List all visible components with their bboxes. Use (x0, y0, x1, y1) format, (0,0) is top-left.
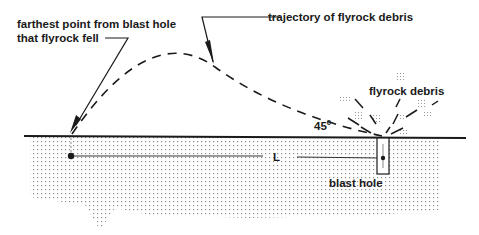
trajectory-label: trajectory of flyrock debris (268, 10, 413, 24)
blast-hole-label: blast hole (329, 176, 383, 190)
trajectory-arc-upper (78, 67, 300, 124)
angle-degree-sup: 0 (327, 118, 331, 127)
flyrock-debris-label: flyrock debris (369, 84, 444, 98)
angle-value: 45 (314, 120, 327, 132)
farthest-point-label-line2: that flyrock fell (17, 31, 176, 45)
angle-label: 450 (314, 116, 331, 133)
distance-label: L (273, 150, 280, 164)
farthest-point-label: farthest point from blast hole that flyr… (17, 17, 176, 45)
blast-hole-charge (381, 156, 385, 160)
landing-point (68, 153, 74, 159)
trajectory-arc (72, 53, 382, 136)
farthest-point-leader (76, 38, 128, 125)
farthest-point-label-line1: farthest point from blast hole (17, 17, 176, 31)
trajectory-arrowhead (205, 40, 214, 64)
